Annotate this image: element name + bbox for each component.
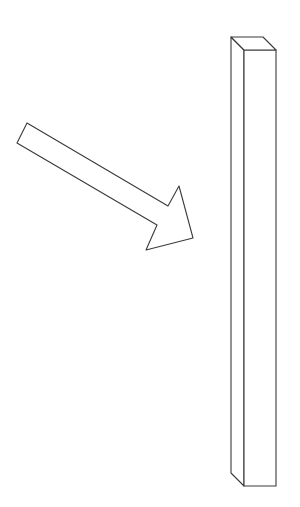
prism-front-face xyxy=(244,50,276,486)
diagram-canvas xyxy=(0,0,300,507)
arrow-shape xyxy=(17,123,193,250)
prism-side-face xyxy=(231,37,244,486)
